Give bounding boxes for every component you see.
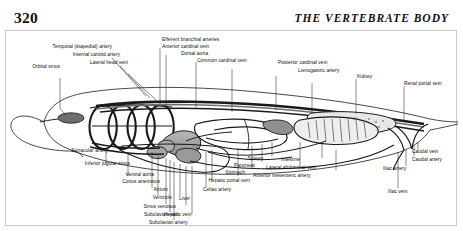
label-spiracular-artery: Spiracular artery [0, 148, 108, 154]
label-efferent-branchial-arteries: Efferent branchial arteries [162, 37, 219, 43]
intestine-organ [294, 117, 378, 145]
label-anterior-cardinal-vein: Anterior cardinal vein [162, 44, 209, 50]
label-internal-carotid-artery: Internal carotid artery [0, 52, 120, 58]
label-ventricle: Ventricle [0, 195, 172, 201]
label-common-cardinal-vein: Common cardinal vein [197, 58, 247, 64]
label-intestine: Intestine [281, 157, 300, 163]
label-inferior-jugular-sinus: Inferior jugular sinus [0, 161, 130, 167]
label-caudal-vein: Caudal vein [412, 149, 438, 155]
label-dorsal-aorta: Dorsal aorta [181, 51, 208, 57]
label-caudal-artery: Caudal artery [412, 157, 442, 163]
label-hepatic-portal-vein: Hepatic portal vein [130, 178, 250, 184]
label-lateral-abdominal-vein: Lateral abdominal vein [266, 165, 316, 171]
label-sinus-venosus: Sinus venosus [0, 204, 176, 210]
label-celiac-artery: Celiac artery [203, 187, 231, 193]
label-posterior-cardinal-vein: Posterior cardinal vein [278, 60, 328, 66]
label-iliac-vein: Iliac vein [388, 189, 408, 195]
spleen-organ [263, 120, 293, 135]
book-page: 320 THE VERTEBRATE BODY [0, 0, 463, 231]
label-iliac-artery: Iliac artery [383, 166, 406, 172]
label-liver: Liver [179, 196, 190, 202]
label-atrium: Atrium [0, 187, 168, 193]
label-pancreas: Pancreas [130, 163, 255, 169]
label-lateral-head-vein: Lateral head vein [0, 60, 128, 66]
label-anterior-mesenteric-artery: Anterior mesenteric artery [253, 173, 311, 179]
label-kidney: Kidney [357, 74, 372, 80]
label-stomach: Stomach [130, 170, 245, 176]
label-hepatic-vein: Hepatic vein [164, 212, 192, 218]
label-spleen: Spleen [130, 156, 263, 162]
label-lienogastric-artery: Lienogastric artery [298, 68, 339, 74]
label-renal-portal-vein: Renal portal vein [404, 81, 442, 87]
label-subclavian-artery: Subclavian artery [149, 220, 188, 226]
label-temporal-stapedial-artery: Temporal (stapedial) artery [0, 44, 112, 50]
label-subclavian-vein: Subclavian vein [0, 212, 179, 218]
